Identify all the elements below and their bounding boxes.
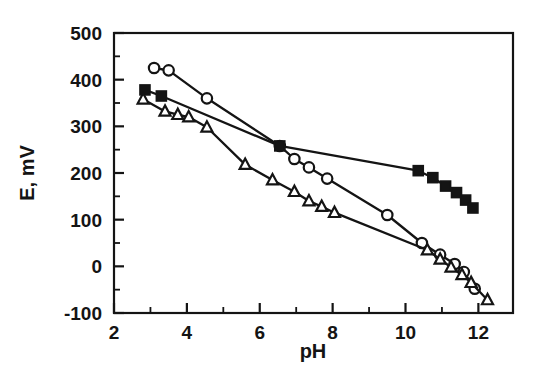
y-tick-label: -100 xyxy=(64,303,102,324)
marker-triangle xyxy=(289,186,300,196)
marker-square xyxy=(413,166,423,176)
marker-circle xyxy=(304,162,314,172)
x-tick-label: 12 xyxy=(468,322,489,343)
y-tick-label: 100 xyxy=(70,210,102,231)
y-tick-label: 400 xyxy=(70,70,102,91)
marker-square xyxy=(468,203,478,213)
marker-square xyxy=(428,173,438,183)
data-series-layer xyxy=(138,63,493,304)
marker-circle xyxy=(289,154,299,164)
marker-square xyxy=(441,181,451,191)
series-line xyxy=(145,90,473,208)
y-tick-label: 300 xyxy=(70,116,102,137)
y-tick-label: 200 xyxy=(70,163,102,184)
x-tick-label: 4 xyxy=(182,322,193,343)
marker-circle xyxy=(149,63,159,73)
y-tick-label: 500 xyxy=(70,23,102,44)
chart-figure: 24681012 -1000100200300400500 pH E, mV xyxy=(0,0,542,382)
marker-circle xyxy=(163,65,173,75)
x-tick-label: 8 xyxy=(327,322,338,343)
x-tick-label: 10 xyxy=(395,322,416,343)
potential-vs-ph-chart: 24681012 -1000100200300400500 pH E, mV xyxy=(0,0,542,382)
marker-circle xyxy=(322,173,332,183)
marker-triangle xyxy=(183,111,194,121)
marker-triangle xyxy=(159,105,170,115)
y-axis-tick-labels: -1000100200300400500 xyxy=(64,23,102,324)
marker-triangle xyxy=(303,195,314,205)
x-tick-label: 2 xyxy=(109,322,120,343)
y-axis-title: E, mV xyxy=(16,145,38,201)
marker-triangle xyxy=(201,121,212,131)
x-tick-label: 6 xyxy=(254,322,265,343)
marker-square xyxy=(156,91,166,101)
marker-triangle xyxy=(329,207,340,217)
marker-triangle xyxy=(316,201,327,211)
marker-circle xyxy=(382,210,392,220)
marker-square xyxy=(140,85,150,95)
series-open-triangles xyxy=(138,93,493,304)
marker-circle xyxy=(202,93,212,103)
x-axis-title: pH xyxy=(300,340,327,362)
marker-triangle xyxy=(267,174,278,184)
x-axis-ticks xyxy=(114,303,478,313)
marker-triangle xyxy=(172,109,183,119)
y-axis-ticks xyxy=(114,33,124,313)
marker-square xyxy=(275,141,285,151)
series-line xyxy=(143,99,487,300)
y-tick-label: 0 xyxy=(91,256,102,277)
